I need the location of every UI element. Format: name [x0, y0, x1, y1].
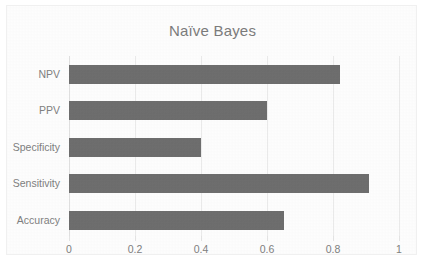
bar-row: PPV: [69, 92, 399, 128]
chart-title: Naïve Bayes: [7, 22, 418, 39]
bar-ppv: [69, 101, 267, 120]
bar-row: Specificity: [69, 129, 399, 165]
x-tick-label-0.8: 0.8: [326, 242, 341, 256]
bar-row: Accuracy: [69, 202, 399, 238]
category-label-accuracy: Accuracy: [17, 211, 60, 230]
category-label-npv: NPV: [38, 65, 60, 84]
category-label-ppv: PPV: [39, 101, 60, 120]
category-label-specificity: Specificity: [13, 138, 60, 157]
x-tick-mark-0: [69, 236, 70, 241]
plot-area: AccuracySensitivitySpecificityPPVNPV: [69, 56, 399, 238]
bar-row: Sensitivity: [69, 165, 399, 201]
x-tick-label-0: 0: [66, 242, 72, 256]
bar-specificity: [69, 138, 201, 157]
x-tick-label-0.4: 0.4: [194, 242, 209, 256]
x-tick-mark-0.2: [135, 236, 136, 241]
bar-sensitivity: [69, 174, 369, 193]
x-tick-mark-0.6: [267, 236, 268, 241]
x-tick-label-1: 1: [396, 242, 402, 256]
x-tick-label-0.6: 0.6: [260, 242, 275, 256]
gridline-1: [399, 56, 400, 238]
x-tick-mark-0.4: [201, 236, 202, 241]
x-tick-mark-1: [399, 236, 400, 241]
bar-accuracy: [69, 211, 284, 230]
category-label-sensitivity: Sensitivity: [13, 174, 60, 193]
bar-row: NPV: [69, 56, 399, 92]
bar-npv: [69, 65, 340, 84]
chart-container: Naïve Bayes AccuracySensitivitySpecifici…: [6, 5, 417, 255]
x-tick-label-0.2: 0.2: [128, 242, 143, 256]
x-tick-mark-0.8: [333, 236, 334, 241]
x-axis: 00.20.40.60.81: [69, 242, 399, 258]
